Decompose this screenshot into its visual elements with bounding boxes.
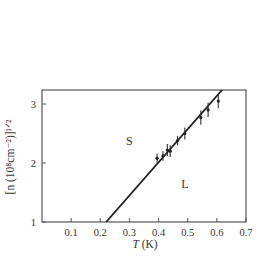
- region-label-liquid: L: [181, 177, 188, 191]
- y-tick-label: 2: [31, 158, 36, 169]
- y-tick-label: 3: [31, 99, 36, 110]
- x-tick-label: 0.5: [181, 227, 194, 238]
- y-tick-label: 1: [31, 217, 36, 228]
- data-point: [183, 132, 186, 135]
- x-tick-label: 0.1: [65, 227, 78, 238]
- x-axis-title: T (K): [132, 238, 157, 251]
- x-tick-label: 0.7: [239, 227, 252, 238]
- x-tick-label: 0.4: [152, 227, 166, 238]
- data-point: [207, 108, 210, 111]
- plot-frame: [42, 90, 246, 222]
- x-tick-label: 0.6: [210, 227, 223, 238]
- data-point: [166, 148, 169, 151]
- x-tick-label: 0.2: [94, 227, 107, 238]
- y-axis-title: [n (10⁸cm⁻²)]¹ᐟ²: [4, 119, 17, 194]
- plot-border: [42, 90, 246, 222]
- data-point: [217, 99, 220, 102]
- data-point: [161, 154, 164, 157]
- data-series: [106, 89, 223, 222]
- axis-ticks: 0.10.20.30.40.50.60.7123: [31, 99, 253, 238]
- region-label-solid: S: [126, 134, 133, 148]
- data-point: [156, 157, 159, 160]
- data-point: [199, 116, 202, 119]
- x-tick-label: 0.3: [123, 227, 136, 238]
- data-point: [169, 150, 172, 153]
- x-axis-unit: (K): [139, 238, 158, 251]
- chart: 0.10.20.30.40.50.60.7123 SL T (K) [n (10…: [0, 0, 268, 268]
- data-point: [176, 139, 179, 142]
